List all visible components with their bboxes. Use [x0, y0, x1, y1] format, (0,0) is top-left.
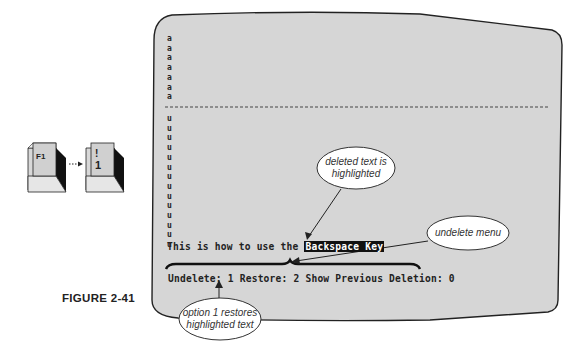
callout-undelete-text: undelete menu	[428, 224, 508, 242]
a-line: a	[167, 73, 172, 83]
one-key-top: !	[95, 148, 98, 159]
a-line: a	[167, 44, 172, 54]
one-key-bottom: 1	[95, 159, 101, 171]
u-line: u	[167, 192, 172, 202]
key-arrow-head	[78, 162, 83, 167]
u-line: u	[167, 163, 172, 173]
callout-deleted-text: deleted text is highlighted	[322, 150, 390, 186]
document-text-line: This is how to use the Backspace Key	[167, 241, 384, 252]
figure-label: FIGURE 2-41	[62, 292, 135, 304]
one-key-graphic	[86, 143, 124, 192]
deleted-text-highlight: Backspace Key	[304, 241, 384, 252]
callout-option1-text: option 1 restores highlighted text	[182, 301, 258, 337]
a-line: a	[167, 83, 172, 93]
lower-window-text: uuuuuuuuuuuuuu	[167, 114, 172, 250]
a-line: a	[167, 63, 172, 73]
u-line: u	[167, 124, 172, 134]
a-line: a	[167, 92, 172, 102]
u-line: u	[167, 201, 172, 211]
text-prefix: This is how to use the	[167, 241, 304, 252]
u-line: u	[167, 143, 172, 153]
upper-window-text: aaaaaaa	[167, 34, 172, 102]
u-line: u	[167, 114, 172, 124]
u-line: u	[167, 153, 172, 163]
a-line: a	[167, 53, 172, 63]
u-line: u	[167, 211, 172, 221]
f1-key-graphic	[28, 143, 66, 192]
u-line: u	[167, 133, 172, 143]
f1-key: F1	[36, 152, 45, 161]
u-line: u	[167, 230, 172, 240]
undelete-menu[interactable]: Undelete: 1 Restore: 2 Show Previous Del…	[168, 273, 455, 284]
u-line: u	[167, 172, 172, 182]
a-line: a	[167, 34, 172, 44]
u-line: u	[167, 221, 172, 231]
u-line: u	[167, 182, 172, 192]
